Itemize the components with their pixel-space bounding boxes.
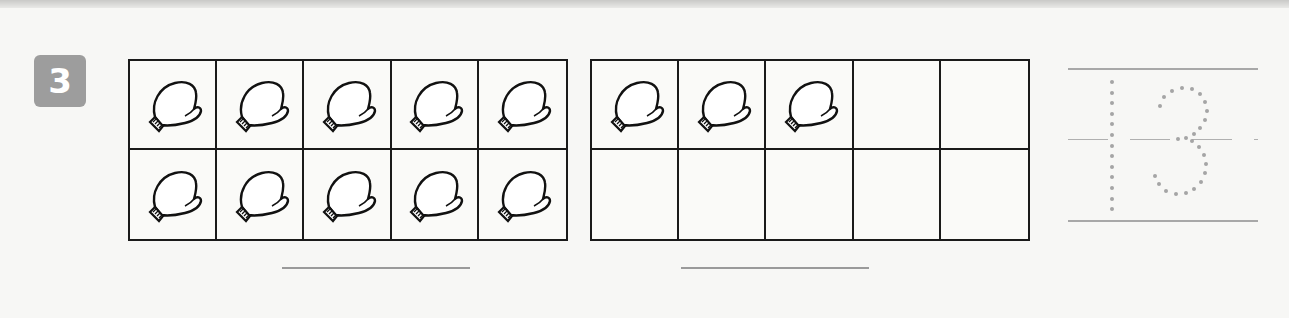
trace-dot bbox=[1184, 191, 1188, 195]
trace-dot bbox=[1174, 192, 1178, 196]
ten-frame-1 bbox=[128, 59, 568, 241]
trace-dot bbox=[1190, 139, 1194, 143]
trace-dot bbox=[1110, 165, 1114, 169]
mitten-icon bbox=[490, 163, 554, 227]
mitten-icon bbox=[690, 73, 754, 137]
trace-dot bbox=[1110, 80, 1114, 84]
tracing-middle-guide bbox=[1068, 139, 1258, 140]
mitten-icon bbox=[228, 163, 292, 227]
trace-dot bbox=[1158, 104, 1162, 108]
ten-frame-cell bbox=[592, 150, 679, 239]
tracing-bottom-guide bbox=[1068, 220, 1258, 222]
mitten-icon bbox=[402, 163, 466, 227]
trace-dot bbox=[1164, 189, 1168, 193]
ten-frame-cell bbox=[304, 150, 391, 239]
ten-frame-2 bbox=[590, 59, 1030, 241]
ten-frame-cell bbox=[679, 61, 766, 150]
trace-dot bbox=[1203, 118, 1207, 122]
ten-frame-cell bbox=[304, 61, 391, 150]
mitten-icon bbox=[315, 73, 379, 137]
trace-dot bbox=[1110, 122, 1114, 126]
ten-frame-cell bbox=[479, 61, 566, 150]
ten-frame-cell bbox=[392, 61, 479, 150]
trace-dot bbox=[1176, 137, 1180, 141]
trace-dot bbox=[1198, 126, 1202, 130]
number-tracing-area[interactable] bbox=[1068, 66, 1258, 226]
mitten-icon bbox=[402, 73, 466, 137]
trace-dot bbox=[1153, 174, 1157, 178]
trace-dot bbox=[1205, 109, 1209, 113]
ten-frame-cell bbox=[592, 61, 679, 150]
answer-line-2[interactable] bbox=[681, 267, 869, 269]
trace-dot bbox=[1157, 182, 1161, 186]
trace-dot bbox=[1180, 86, 1184, 90]
trace-dot bbox=[1110, 197, 1114, 201]
trace-dot bbox=[1170, 89, 1174, 93]
ten-frame-cell bbox=[941, 61, 1028, 150]
mitten-icon bbox=[228, 73, 292, 137]
trace-dot bbox=[1184, 136, 1188, 140]
trace-dot bbox=[1198, 92, 1202, 96]
ten-frame-cell bbox=[854, 61, 941, 150]
trace-dot bbox=[1192, 132, 1196, 136]
ten-frame-cell bbox=[854, 150, 941, 239]
mitten-icon bbox=[490, 73, 554, 137]
ten-frame-cell bbox=[130, 61, 217, 150]
trace-dot bbox=[1110, 154, 1114, 158]
trace-dot bbox=[1197, 145, 1201, 149]
mitten-icon bbox=[603, 73, 667, 137]
trace-dot bbox=[1190, 87, 1194, 91]
trace-dot bbox=[1110, 112, 1114, 116]
ten-frame-cell bbox=[941, 150, 1028, 239]
trace-dot bbox=[1202, 153, 1206, 157]
trace-dot bbox=[1110, 91, 1114, 95]
exercise-number-badge: 3 bbox=[34, 55, 86, 107]
trace-dot bbox=[1203, 100, 1207, 104]
ten-frame-cell bbox=[217, 61, 304, 150]
mitten-icon bbox=[141, 73, 205, 137]
ten-frame-cell bbox=[217, 150, 304, 239]
tracing-top-guide bbox=[1068, 68, 1258, 70]
ten-frame-cell bbox=[392, 150, 479, 239]
trace-dot bbox=[1110, 144, 1114, 148]
ten-frame-cell bbox=[130, 150, 217, 239]
ten-frame-cell bbox=[766, 150, 853, 239]
trace-dot bbox=[1110, 175, 1114, 179]
trace-dot bbox=[1192, 187, 1196, 191]
ten-frame-cell bbox=[479, 150, 566, 239]
ten-frame-cell bbox=[766, 61, 853, 150]
trace-dot bbox=[1110, 101, 1114, 105]
trace-dot bbox=[1204, 162, 1208, 166]
trace-dot bbox=[1203, 171, 1207, 175]
trace-dot bbox=[1110, 207, 1114, 211]
trace-dot bbox=[1110, 186, 1114, 190]
mitten-icon bbox=[777, 73, 841, 137]
trace-dot bbox=[1110, 133, 1114, 137]
trace-dot bbox=[1162, 95, 1166, 99]
mitten-icon bbox=[315, 163, 379, 227]
scan-top-edge bbox=[0, 0, 1289, 8]
answer-line-1[interactable] bbox=[282, 267, 470, 269]
mitten-icon bbox=[141, 163, 205, 227]
trace-dot bbox=[1199, 180, 1203, 184]
ten-frame-cell bbox=[679, 150, 766, 239]
